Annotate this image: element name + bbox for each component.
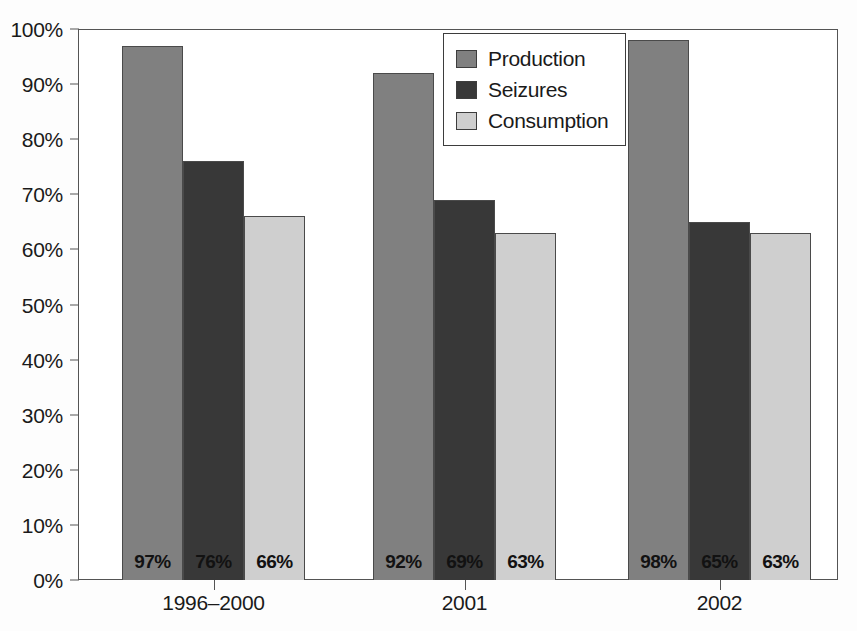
y-axis-tick-mark [70, 29, 79, 30]
y-axis-tick-label: 10% [22, 514, 63, 535]
x-axis-tick-label: 2002 [697, 592, 743, 613]
y-axis-tick-mark [70, 139, 79, 140]
bar-value-label: 92% [374, 552, 433, 571]
x-axis-tick-label: 2001 [442, 592, 488, 613]
bar-value-label: 98% [629, 552, 688, 571]
bar-value-label: 66% [245, 552, 304, 571]
bar-production-1: 97% [122, 46, 183, 580]
bar-consumption-3: 63% [750, 233, 811, 580]
y-axis-tick-label: 80% [22, 129, 63, 150]
x-axis-tick-mark [465, 580, 466, 590]
bar-consumption-2: 63% [495, 233, 556, 580]
bar-value-label: 69% [435, 552, 494, 571]
bar-consumption-1: 66% [244, 216, 305, 580]
y-axis-tick-mark [70, 304, 79, 305]
bar-value-label: 65% [690, 552, 749, 571]
y-axis-tick-mark [70, 194, 79, 195]
x-axis-tick-mark [214, 580, 215, 590]
bar-seizures-3: 65% [689, 222, 750, 580]
legend-swatch-consumption [456, 112, 477, 130]
y-axis-tick-label: 20% [22, 459, 63, 480]
bar-value-label: 76% [184, 552, 243, 571]
y-axis-tick-label: 70% [22, 184, 63, 205]
y-axis-tick-label: 90% [22, 74, 63, 95]
bar-value-label: 63% [496, 552, 555, 571]
legend-label-seizures: Seizures [488, 79, 567, 100]
y-axis: 0%10%20%30%40%50%60%70%80%90%100% [0, 29, 63, 580]
legend-swatch-seizures [456, 81, 477, 99]
x-axis-tick-mark [720, 580, 721, 590]
legend-item-seizures: Seizures [456, 74, 615, 105]
legend-item-consumption: Consumption [456, 105, 615, 136]
y-axis-tick-label: 50% [22, 294, 63, 315]
y-axis-tick-mark [70, 359, 79, 360]
legend-label-consumption: Consumption [488, 110, 608, 131]
bar-chart: 0%10%20%30%40%50%60%70%80%90%100% 97%76%… [0, 0, 857, 631]
bar-production-2: 92% [373, 73, 434, 580]
bar-seizures-2: 69% [434, 200, 495, 580]
legend-item-production: Production [456, 43, 615, 74]
y-axis-tick-mark [70, 249, 79, 250]
legend-swatch-production [456, 50, 477, 68]
y-axis-tick-label: 30% [22, 404, 63, 425]
y-axis-tick-mark [70, 580, 79, 581]
bar-seizures-1: 76% [183, 161, 244, 580]
y-axis-tick-label: 40% [22, 349, 63, 370]
x-axis-tick-label: 1996–2000 [162, 592, 264, 613]
y-axis-tick-mark [70, 414, 79, 415]
y-axis-tick-label: 60% [22, 239, 63, 260]
bar-value-label: 97% [123, 552, 182, 571]
y-axis-tick-label: 100% [10, 19, 63, 40]
bar-value-label: 63% [751, 552, 810, 571]
bar-production-3: 98% [628, 40, 689, 580]
y-axis-tick-label: 0% [33, 570, 63, 591]
chart-legend: Production Seizures Consumption [443, 33, 626, 146]
y-axis-tick-mark [70, 84, 79, 85]
legend-label-production: Production [488, 48, 585, 69]
y-axis-tick-mark [70, 469, 79, 470]
y-axis-tick-mark [70, 524, 79, 525]
